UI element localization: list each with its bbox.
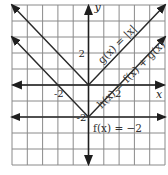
f-function-label: f(x) = −2 xyxy=(93,122,142,134)
y-axis-label: y xyxy=(94,1,102,14)
axes: yx-222-2 xyxy=(13,1,164,164)
g-function-label: g(x) = |x| xyxy=(95,22,140,67)
y-tick-label: 2 xyxy=(79,48,85,59)
function-graph: yx-222-2 g(x) = |x|h(x) = f(x) + g(x)f(x… xyxy=(0,0,168,175)
x-axis-label: x xyxy=(156,88,163,101)
